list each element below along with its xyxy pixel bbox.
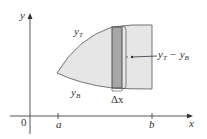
strip-midpoint-dot (126, 56, 128, 58)
diagram-canvas: y x 0 a b yT yB Δx yT − yB (0, 0, 207, 139)
y-axis-arrow-icon (28, 13, 33, 19)
tick-label-a: a (56, 118, 62, 130)
tick-label-b: b (149, 118, 155, 130)
vertical-strip (112, 27, 122, 88)
origin-label: 0 (21, 116, 27, 128)
strip-height-label: yT − yB (157, 48, 190, 62)
width-bracket (112, 89, 122, 91)
height-pointer-dot (131, 56, 133, 58)
top-curve-label: yT (73, 25, 84, 39)
strip-width-label: Δx (111, 93, 124, 105)
bottom-curve-label: yB (70, 86, 81, 100)
x-axis-label: x (188, 117, 194, 129)
area-between-curves-diagram: y x 0 a b yT yB Δx yT − yB (0, 0, 207, 139)
y-axis-label: y (19, 9, 25, 21)
